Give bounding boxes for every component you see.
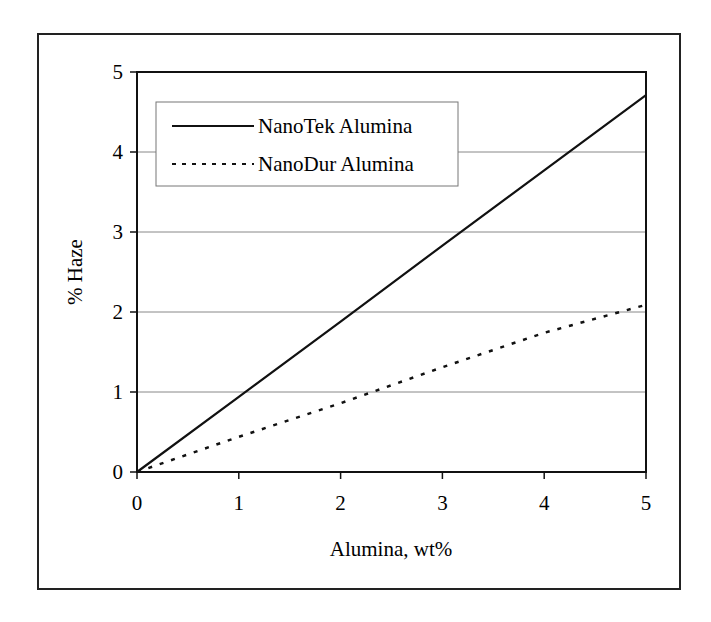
series-line-nanodur [137, 305, 646, 472]
y-axis-tick-labels: 012345 [113, 60, 124, 484]
y-axis-title: % Haze [63, 239, 87, 305]
y-tick-label: 3 [113, 220, 124, 244]
legend-label-nanotek: NanoTek Alumina [258, 114, 413, 138]
x-tick-label: 3 [437, 491, 448, 515]
y-tick-label: 5 [113, 60, 124, 84]
x-tick-label: 4 [539, 491, 550, 515]
x-tick-label: 2 [335, 491, 346, 515]
x-tick-label: 1 [234, 491, 245, 515]
chart-plot: 012345 012345 Alumina, wt% % Haze NanoTe… [0, 0, 711, 622]
legend: NanoTek Alumina NanoDur Alumina [156, 102, 458, 186]
x-axis-tick-labels: 012345 [132, 491, 652, 515]
legend-label-nanodur: NanoDur Alumina [258, 152, 414, 176]
y-tick-label: 1 [113, 380, 124, 404]
y-tick-label: 2 [113, 300, 124, 324]
y-tick-label: 0 [113, 460, 124, 484]
gridlines [137, 152, 646, 392]
y-tick-label: 4 [113, 140, 124, 164]
x-tick-label: 0 [132, 491, 143, 515]
x-axis-title: Alumina, wt% [330, 537, 452, 561]
x-tick-label: 5 [641, 491, 652, 515]
